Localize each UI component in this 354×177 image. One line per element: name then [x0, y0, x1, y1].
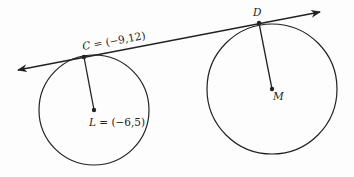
- label-l: L = (−6,5): [88, 116, 145, 128]
- tangent-line: [18, 12, 320, 70]
- point-d: [257, 21, 261, 25]
- radius-lc: [84, 57, 94, 110]
- label-l-letter: L: [88, 116, 96, 128]
- diagram-canvas: C = (−9,12) D L = (−6,5) M: [0, 0, 354, 177]
- label-c: C = (−9,12): [81, 29, 146, 52]
- label-l-coords: = (−6,5): [96, 116, 145, 128]
- label-m: M: [272, 90, 284, 102]
- label-d: D: [252, 6, 262, 18]
- radius-md: [259, 23, 272, 89]
- tangent-circles-diagram: C = (−9,12) D L = (−6,5) M: [0, 0, 354, 177]
- center-l: [92, 108, 96, 112]
- point-c: [82, 55, 86, 59]
